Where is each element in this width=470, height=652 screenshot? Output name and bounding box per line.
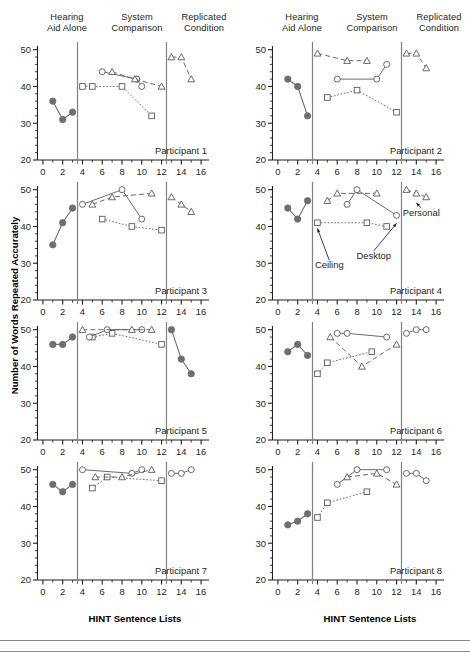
y-tick-label: 50 (256, 464, 266, 475)
data-point (314, 50, 321, 56)
x-axis-ticks: 0246810121416 (40, 580, 206, 597)
data-point (304, 511, 310, 517)
data-point (59, 116, 65, 122)
y-tick-label: 20 (21, 434, 31, 445)
column-header-line1: System (99, 12, 175, 23)
series-replicated_triangle (168, 54, 195, 82)
x-tick-label: 0 (40, 586, 45, 597)
x-tick-label: 10 (372, 166, 382, 177)
x-tick-label: 6 (335, 306, 340, 317)
data-point (315, 515, 321, 521)
data-point (393, 481, 400, 487)
x-tick-label: 14 (176, 446, 186, 457)
x-tick-label: 14 (176, 306, 186, 317)
panel-label: Participant 4 (390, 285, 442, 296)
data-point (394, 212, 400, 218)
data-point (413, 470, 419, 476)
panel-label: Participant 8 (390, 565, 442, 576)
x-tick-label: 10 (137, 166, 147, 177)
series-desktop (334, 467, 389, 488)
column-header-line1: System (334, 12, 410, 23)
x-tick-label: 0 (275, 306, 280, 317)
y-tick-label: 20 (256, 574, 266, 585)
y-tick-label: 40 (21, 501, 31, 512)
series-hearing_aid_alone (285, 341, 311, 358)
y-tick-label: 20 (256, 154, 266, 165)
series-desktop (334, 61, 389, 82)
x-tick-label: 8 (354, 306, 359, 317)
panel-label: Participant 3 (155, 285, 207, 296)
data-point (304, 352, 310, 358)
x-tick-label: 14 (411, 446, 421, 457)
data-point (139, 83, 145, 89)
panel-plot: 203040500246810121416Participant 6 (248, 320, 448, 470)
series-line (317, 223, 386, 227)
data-point (59, 489, 65, 495)
series-hearing_aid_alone (285, 76, 311, 119)
data-point (403, 470, 409, 476)
y-tick-label: 50 (21, 44, 31, 55)
y-tick-label: 50 (256, 324, 266, 335)
column-header-hearing-aid-alone-right: Hearing Aid Alone (269, 12, 335, 34)
x-tick-label: 14 (411, 306, 421, 317)
data-point (413, 50, 420, 56)
x-tick-label: 2 (60, 586, 65, 597)
section-dividers (313, 322, 402, 444)
x-tick-label: 8 (119, 306, 124, 317)
y-tick-label: 20 (256, 434, 266, 445)
y-tick-label: 30 (256, 258, 266, 269)
data-point (99, 216, 105, 222)
data-point (86, 334, 92, 340)
y-tick-label: 20 (21, 294, 31, 305)
y-axis-ticks: 20304050 (21, 184, 38, 305)
panel-label: Participant 7 (155, 565, 207, 576)
x-tick-label: 10 (372, 306, 382, 317)
data-point (50, 341, 56, 347)
series-replicated_circle (403, 470, 429, 483)
x-tick-label: 0 (275, 166, 280, 177)
data-point (90, 485, 96, 491)
panel-participant-4: 203040500246810121416CeilingDesktopPerso… (248, 180, 448, 330)
data-point (374, 76, 380, 82)
series-line (317, 53, 366, 60)
y-axis-ticks: 20304050 (21, 464, 38, 585)
data-point (294, 83, 300, 89)
section-dividers (78, 462, 167, 584)
data-point (393, 341, 400, 347)
panel-participant-7: 203040500246810121416Participant 7 (13, 460, 213, 610)
series-desktop (334, 330, 389, 340)
data-point (159, 478, 165, 484)
series-hearing_aid_alone (50, 334, 76, 348)
data-point (354, 87, 360, 93)
y-tick-label: 40 (256, 221, 266, 232)
series-line (327, 90, 396, 112)
section-dividers (78, 42, 167, 164)
data-point (69, 481, 75, 487)
x-tick-label: 0 (40, 306, 45, 317)
data-point (90, 84, 96, 90)
x-axis-ticks: 0246810121416 (40, 440, 206, 457)
data-point (285, 349, 291, 355)
x-tick-label: 10 (137, 306, 147, 317)
column-header-hearing-aid-alone: Hearing Aid Alone (34, 12, 100, 34)
x-tick-label: 4 (80, 166, 85, 177)
axes (272, 46, 444, 160)
data-point (168, 470, 174, 476)
data-point (354, 187, 360, 193)
panel-participant-2: 203040500246810121416Participant 2 (248, 40, 448, 190)
y-tick-label: 30 (21, 398, 31, 409)
y-axis-ticks: 20304050 (256, 324, 273, 445)
x-tick-label: 6 (100, 166, 105, 177)
x-axis-ticks: 0246810121416 (40, 160, 206, 177)
series-ceiling (315, 349, 375, 377)
series-desktop (79, 467, 144, 477)
series-hearing_aid_alone (50, 98, 76, 123)
x-axis-ticks: 0246810121416 (275, 160, 441, 177)
series-line (347, 473, 396, 484)
x-tick-label: 6 (335, 166, 340, 177)
x-tick-label: 14 (411, 166, 421, 177)
data-point (168, 194, 175, 200)
series-hearing_aid_alone (50, 481, 76, 495)
x-tick-label: 16 (196, 586, 206, 597)
panel-label: Participant 2 (390, 145, 442, 156)
